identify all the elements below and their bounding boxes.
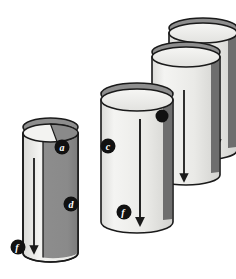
marker-f-middle: f — [117, 205, 132, 220]
marker-f-front: f — [11, 240, 26, 255]
marker-d: d — [64, 197, 79, 212]
cylinder-3-shadow-strip — [211, 60, 219, 173]
marker-c: c — [101, 139, 116, 154]
diagram-canvas: a d f c f — [0, 0, 236, 279]
marker-dot — [156, 110, 169, 123]
cylinder-2-group — [101, 83, 173, 233]
cylinder-1-group — [23, 118, 78, 262]
cylinder-4-shadow-strip — [228, 36, 236, 148]
marker-a: a — [55, 140, 70, 155]
cylinder-diagram: a d f c f — [0, 0, 236, 279]
cylinder-2-top-face — [101, 89, 173, 111]
marker-a-label: a — [60, 142, 65, 153]
marker-dot-disc — [156, 110, 169, 123]
cylinder-4-top-face — [169, 23, 236, 43]
cylinder-3-top-face — [152, 47, 220, 67]
marker-c-label: c — [106, 141, 111, 152]
